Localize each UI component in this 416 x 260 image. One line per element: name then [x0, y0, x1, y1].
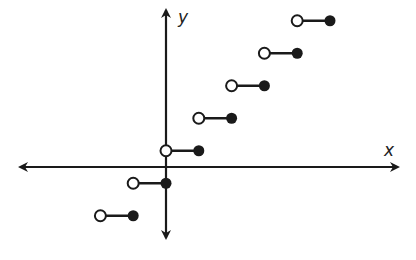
open-endpoint-icon [95, 210, 106, 221]
closed-endpoint-icon [259, 80, 270, 91]
x-axis-label: x [383, 140, 395, 160]
closed-endpoint-icon [226, 113, 237, 124]
step-segments [95, 15, 336, 221]
step-function-graph: x y [0, 0, 416, 260]
step-segment [292, 15, 336, 26]
step-segment [193, 113, 237, 124]
closed-endpoint-icon [325, 15, 336, 26]
closed-endpoint-icon [128, 210, 139, 221]
closed-endpoint-icon [161, 178, 172, 189]
step-segment [95, 210, 139, 221]
step-segment [161, 145, 205, 156]
open-endpoint-icon [292, 15, 303, 26]
step-segment [259, 48, 303, 59]
open-endpoint-icon [161, 145, 172, 156]
closed-endpoint-icon [292, 48, 303, 59]
open-endpoint-icon [259, 48, 270, 59]
open-endpoint-icon [193, 113, 204, 124]
closed-endpoint-icon [193, 145, 204, 156]
step-segment [226, 80, 270, 91]
open-endpoint-icon [226, 80, 237, 91]
open-endpoint-icon [128, 178, 139, 189]
y-axis-label: y [177, 7, 189, 27]
step-segment [128, 178, 172, 189]
